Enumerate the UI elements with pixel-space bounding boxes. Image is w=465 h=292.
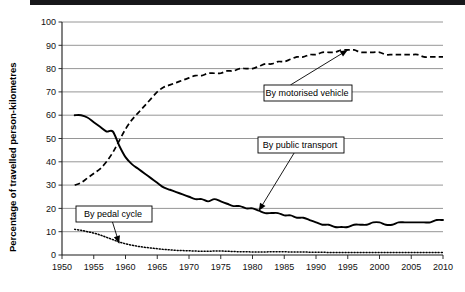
annotation-label: By pedal cycle <box>84 209 142 219</box>
x-tick-label-2000: 2000 <box>369 262 389 272</box>
y-axis-title: Percentage of travelled person-kilometre… <box>7 62 18 252</box>
y-tick-label-100: 100 <box>41 17 56 27</box>
x-tick-label-1980: 1980 <box>242 262 262 272</box>
x-tick-label-1965: 1965 <box>147 262 167 272</box>
y-tick-label-40: 40 <box>46 157 56 167</box>
annotation-label: By public transport <box>263 140 338 150</box>
y-tick-label-0: 0 <box>51 250 56 260</box>
y-tick-label-10: 10 <box>46 227 56 237</box>
series-line-by-motorised-vehicle <box>75 50 443 185</box>
annotation-leader-line <box>290 50 347 85</box>
x-tick-label-1950: 1950 <box>52 262 72 272</box>
chart-canvas: 0102030405060708090100 19501955196019651… <box>0 0 465 292</box>
y-tick-label-50: 50 <box>46 134 56 144</box>
series-line-by-pedal-cycle <box>75 229 443 252</box>
annotation-arrow-head <box>259 203 266 211</box>
annotation-arrow-head <box>114 235 120 243</box>
y-tick-label-30: 30 <box>46 180 56 190</box>
annotation-layer: By motorised vehicleBy public transportB… <box>76 50 352 243</box>
x-tick-label-1970: 1970 <box>179 262 199 272</box>
x-axis-tick-labels: 1950195519601965197019751980198519901995… <box>52 262 453 272</box>
x-tick-label-2005: 2005 <box>401 262 421 272</box>
x-axis-ticks <box>62 255 443 259</box>
x-tick-label-1960: 1960 <box>115 262 135 272</box>
x-tick-label-1955: 1955 <box>84 262 104 272</box>
y-tick-label-70: 70 <box>46 87 56 97</box>
y-tick-label-20: 20 <box>46 204 56 214</box>
y-tick-label-90: 90 <box>46 41 56 51</box>
x-tick-label-2010: 2010 <box>433 262 453 272</box>
x-tick-label-1990: 1990 <box>306 262 326 272</box>
x-tick-label-1995: 1995 <box>338 262 358 272</box>
travel-mode-share-chart: 0102030405060708090100 19501955196019651… <box>0 0 465 292</box>
y-axis-tick-labels: 0102030405060708090100 <box>41 17 56 260</box>
x-tick-label-1975: 1975 <box>211 262 231 272</box>
y-tick-label-60: 60 <box>46 110 56 120</box>
gridlines <box>62 22 443 232</box>
annotation-label: By motorised vehicle <box>265 88 348 98</box>
x-tick-label-1985: 1985 <box>274 262 294 272</box>
y-tick-label-80: 80 <box>46 64 56 74</box>
